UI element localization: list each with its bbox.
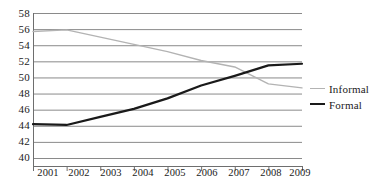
x-axis-tick-label: 2001 (37, 167, 58, 179)
x-axis-tick-label: 2003 (100, 167, 121, 179)
axis-lines (33, 13, 302, 167)
x-axis-tick-label: 2008 (260, 167, 281, 179)
legend-item-informal: Informal (310, 79, 373, 95)
legend-label: Formal (329, 99, 362, 111)
x-axis-tick-label: 2007 (228, 167, 249, 179)
line-chart: 58 56 54 52 50 48 46 44 42 40 2001 2002 … (0, 0, 373, 191)
legend-line-swatch-icon (310, 103, 325, 105)
x-axis-tick-label: 2002 (68, 167, 89, 179)
series-line-informal (33, 30, 302, 88)
x-axis-labels: 2001 2002 2003 2004 2005 2006 2007 2008 … (0, 167, 373, 183)
gridlines (33, 14, 302, 159)
legend-label: Informal (329, 83, 369, 95)
x-axis-tick-label: 2006 (196, 167, 217, 179)
legend-line-swatch-icon (310, 88, 325, 89)
chart-legend: Informal Formal (310, 79, 373, 111)
x-axis-tick-label: 2009 (289, 167, 310, 179)
x-axis-tick-label: 2005 (164, 167, 185, 179)
x-axis-tick-label: 2004 (132, 167, 153, 179)
legend-item-formal: Formal (310, 95, 373, 111)
